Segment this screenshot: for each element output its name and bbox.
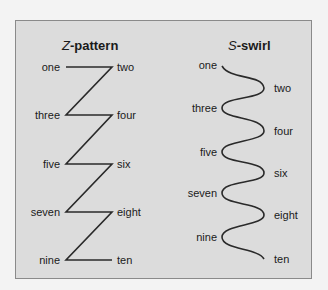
s-label-right: ten xyxy=(274,253,289,265)
s-swirl-title: S-swirl xyxy=(228,38,271,53)
z-label-left: seven xyxy=(10,206,60,218)
z-label-right: ten xyxy=(117,254,132,266)
s-label-left: five xyxy=(166,146,217,158)
z-label-left: nine xyxy=(10,254,60,266)
z-label-left: three xyxy=(10,109,60,121)
s-label-left: nine xyxy=(166,231,217,243)
s-label-left: seven xyxy=(166,187,217,199)
s-swirl-title-letter: S xyxy=(228,38,237,53)
z-pattern-title: Z-pattern xyxy=(62,38,118,53)
z-label-right: four xyxy=(117,109,136,121)
z-pattern-path xyxy=(66,67,112,260)
z-pattern-title-rest: -pattern xyxy=(70,38,118,53)
s-label-left: one xyxy=(166,59,217,71)
z-label-right: two xyxy=(117,61,134,73)
s-label-right: four xyxy=(274,125,293,137)
s-label-right: eight xyxy=(274,209,298,221)
s-label-right: six xyxy=(274,167,287,179)
z-label-right: eight xyxy=(117,206,141,218)
connector-lines xyxy=(0,0,328,290)
z-label-right: six xyxy=(117,158,130,170)
z-label-left: five xyxy=(10,158,60,170)
z-label-left: one xyxy=(10,61,60,73)
z-pattern-title-letter: Z xyxy=(62,38,70,53)
s-label-right: two xyxy=(274,82,291,94)
s-swirl-title-rest: -swirl xyxy=(237,38,271,53)
s-label-left: three xyxy=(166,102,217,114)
s-swirl-path xyxy=(222,66,264,259)
